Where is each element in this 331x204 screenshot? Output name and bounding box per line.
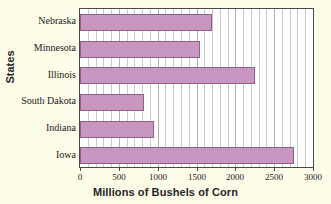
x-tick-label-1000: 1000 <box>138 171 178 183</box>
y-tick-label-indiana: Indiana <box>12 122 76 134</box>
bar-south-dakota <box>80 94 144 111</box>
plot-area <box>79 8 314 168</box>
bar-illinois <box>80 67 255 84</box>
y-tick-label-minnesota: Minnesota <box>12 42 76 54</box>
bar-nebraska <box>80 14 212 31</box>
bar-minnesota <box>80 41 200 58</box>
x-axis-tick-labels: 050010001500200025003000 <box>79 171 314 184</box>
x-tick-label-500: 500 <box>99 171 139 183</box>
bar-chart: States NebraskaMinnesotaIllinoisSouth Da… <box>0 0 331 204</box>
y-tick-label-nebraska: Nebraska <box>12 15 76 27</box>
bar-iowa <box>80 147 294 164</box>
y-tick-label-south-dakota: South Dakota <box>12 95 76 107</box>
x-axis-title: Millions of Bushels of Corn <box>0 186 331 198</box>
x-tick-label-2500: 2500 <box>254 171 294 183</box>
x-tick-label-0: 0 <box>60 171 100 183</box>
x-tick-label-1500: 1500 <box>177 171 217 183</box>
bar-indiana <box>80 121 154 138</box>
x-tick-label-2000: 2000 <box>215 171 255 183</box>
y-axis-tick-labels: NebraskaMinnesotaIllinoisSouth DakotaInd… <box>12 8 76 168</box>
y-tick-label-illinois: Illinois <box>12 69 76 81</box>
y-tick-label-iowa: Iowa <box>12 149 76 161</box>
bar-series <box>80 9 313 167</box>
x-tick-label-3000: 3000 <box>293 171 331 183</box>
